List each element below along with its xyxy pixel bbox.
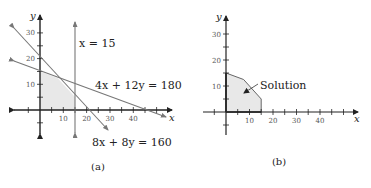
y-tick-label: 20	[26, 55, 35, 63]
y-axis-label-a: y	[29, 10, 36, 21]
panel-label-b: (b)	[272, 156, 286, 167]
y-tick-label: 30	[26, 29, 35, 37]
label-8x-8y-160: 8x + 8y = 160	[92, 136, 172, 149]
y-tick-label: 20	[212, 57, 221, 65]
y-tick-label: 30	[212, 31, 221, 39]
y-tick-label: 10	[26, 81, 35, 89]
solution-label: Solution	[260, 79, 306, 92]
x-tick-label: 10	[245, 117, 254, 125]
solution-region	[226, 73, 261, 112]
x-tick-label: 20	[82, 115, 91, 123]
x-tick-label: 30	[106, 115, 115, 123]
x-tick-label: 40	[129, 115, 138, 123]
panel-label-a: (a)	[91, 161, 105, 172]
figure: 10 20 30 40 10 20 30 x y x = 15 4x + 12y…	[0, 0, 371, 188]
chart-b: 10 20 30 40 10 20 30 x y Solution (b)	[203, 11, 360, 167]
chart-a: 10 20 30 40 10 20 30 x y x = 15 4x + 12y…	[14, 10, 182, 172]
label-x-equals-15: x = 15	[79, 37, 115, 50]
x-tick-label: 30	[292, 117, 301, 125]
x-tick-label: 10	[59, 115, 68, 123]
x-tick-label: 20	[269, 117, 278, 125]
y-tick-label: 10	[212, 83, 221, 91]
x-axis-label-b: x	[354, 113, 360, 124]
x-tick-label: 40	[316, 117, 325, 125]
y-axis-label-b: y	[215, 11, 222, 22]
x-axis-label-a: x	[169, 112, 175, 123]
label-4x-12y-180: 4x + 12y = 180	[95, 79, 182, 92]
